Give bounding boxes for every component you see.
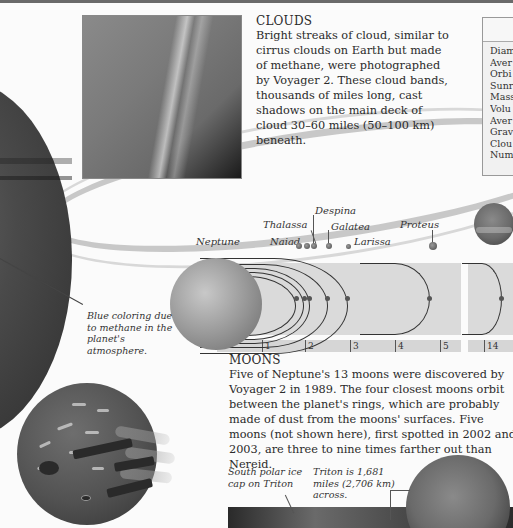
blue-coloring-annotation: Blue coloring due to methane in the plan… bbox=[87, 310, 177, 356]
orbit-dot bbox=[294, 296, 299, 301]
orbit-dot bbox=[307, 296, 312, 301]
orbit-proteus bbox=[360, 263, 430, 335]
stats-row: Mass bbox=[490, 91, 513, 103]
cloud-streak bbox=[85, 431, 99, 434]
moons-heading: MOONS bbox=[229, 353, 513, 367]
moon-label-despina: Despina bbox=[315, 205, 356, 216]
cloud-streak bbox=[39, 441, 51, 449]
scale-tick: 3 bbox=[350, 340, 359, 352]
cloud-streak bbox=[57, 422, 73, 430]
stats-row: Clou bbox=[490, 138, 513, 150]
ice-cap-caption: South polar ice cap on Triton bbox=[228, 466, 308, 489]
stats-row: Aver bbox=[490, 115, 513, 127]
stats-row: Orbi bbox=[490, 68, 513, 80]
stats-table-header bbox=[483, 18, 513, 42]
clouds-section: CLOUDS Bright streaks of cloud, similar … bbox=[256, 14, 456, 148]
triton-size-caption: Triton is 1,681 miles (2,706 km) across. bbox=[313, 466, 405, 501]
moon-larissa bbox=[346, 244, 351, 249]
stats-row: Num bbox=[490, 149, 513, 161]
moons-section: MOONS Five of Neptune's 13 moons were di… bbox=[229, 353, 513, 472]
moon-despina bbox=[311, 243, 317, 249]
cloud-streak bbox=[72, 403, 86, 406]
scale-tick: 5 bbox=[440, 340, 449, 352]
nereid-moon bbox=[474, 203, 513, 245]
leader-line bbox=[390, 490, 391, 520]
leader-line bbox=[313, 215, 314, 245]
cloud-streak bbox=[92, 467, 104, 470]
neptune-label: Neptune bbox=[196, 236, 240, 247]
scale-tick: 14 bbox=[484, 340, 498, 352]
moon-galatea bbox=[326, 243, 332, 249]
planet-stats-table: Diam Aver Orbi Sunr Mass Volu Aver Grav … bbox=[482, 17, 513, 176]
stats-row: Diam bbox=[490, 45, 513, 57]
stats-row: Aver bbox=[490, 57, 513, 69]
small-dark-spot bbox=[81, 495, 91, 501]
planet-band bbox=[0, 176, 72, 180]
clouds-heading: CLOUDS bbox=[256, 14, 456, 28]
cloud-streak bbox=[97, 409, 109, 412]
neptune-large-illustration bbox=[0, 80, 72, 440]
moon-proteus bbox=[429, 242, 437, 250]
top-rule bbox=[0, 0, 513, 3]
leader-line bbox=[390, 490, 410, 491]
moon-label-proteus: Proteus bbox=[400, 219, 439, 230]
stats-row: Sunr bbox=[490, 80, 513, 92]
moon-label-larissa: Larissa bbox=[354, 236, 391, 247]
scale-tick: 4 bbox=[395, 340, 404, 352]
stats-row: Grav bbox=[490, 126, 513, 138]
stats-row: Volu bbox=[490, 103, 513, 115]
moon-label-galatea: Galatea bbox=[331, 221, 370, 232]
neptune-small-illustration bbox=[170, 258, 262, 350]
orbit-dot bbox=[499, 296, 504, 301]
orbit-dot bbox=[325, 296, 330, 301]
orbit-dot bbox=[345, 296, 350, 301]
moon-naiad bbox=[296, 243, 302, 249]
clouds-photo bbox=[82, 15, 242, 179]
moon-thalassa bbox=[304, 243, 310, 249]
great-dark-spot bbox=[39, 461, 59, 475]
planet-band bbox=[0, 158, 72, 164]
orbit-dot bbox=[427, 296, 432, 301]
clouds-body: Bright streaks of cloud, similar to cirr… bbox=[256, 28, 456, 148]
orbit-nereid bbox=[462, 263, 502, 335]
moon-label-thalassa: Thalassa bbox=[263, 219, 307, 230]
